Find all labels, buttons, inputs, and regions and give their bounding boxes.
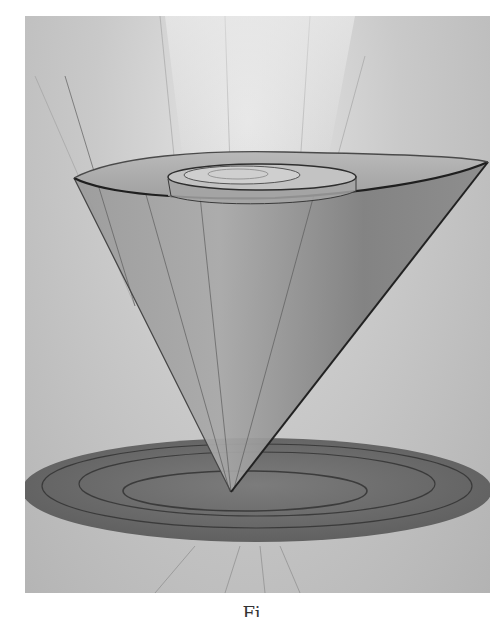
cone-drawing [25,16,490,593]
figure-caption: Fi [0,600,503,617]
cone-illustration [25,16,490,593]
